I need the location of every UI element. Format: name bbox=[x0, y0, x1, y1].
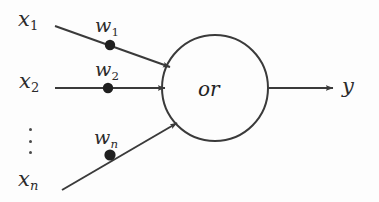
connection-line-xn bbox=[62, 123, 177, 190]
weight-label-w2-base: w bbox=[95, 58, 111, 80]
input-label-x1-base: x bbox=[18, 7, 30, 31]
input-label-x1-subscript: 1 bbox=[30, 18, 38, 33]
input-label-x2-base: x bbox=[19, 69, 31, 93]
input-label-x2: x2 bbox=[19, 71, 39, 92]
vertical-ellipsis-icon bbox=[28, 128, 32, 154]
input-label-x2-subscript: 2 bbox=[31, 80, 39, 95]
input-label-xn: xn bbox=[18, 169, 38, 190]
output-label-y: y bbox=[342, 76, 354, 97]
weight-label-w2: w2 bbox=[95, 60, 119, 79]
weight-label-wn: wn bbox=[94, 128, 118, 147]
neuron-diagram: x1 x2 xn w1 w2 wn or y bbox=[0, 0, 379, 202]
weight-label-wn-subscript: n bbox=[111, 137, 119, 151]
weight-dot-w1 bbox=[105, 40, 115, 50]
weight-label-w1-base: w bbox=[95, 14, 111, 36]
weight-label-w1-subscript: 1 bbox=[112, 25, 120, 39]
diagram-canvas bbox=[0, 0, 379, 202]
ellipsis-dot bbox=[29, 140, 32, 143]
neuron-operation-label: or bbox=[198, 77, 220, 101]
ellipsis-dot bbox=[29, 128, 32, 131]
weight-label-wn-base: w bbox=[94, 126, 110, 148]
input-label-x1: x1 bbox=[18, 9, 38, 30]
weight-dot-w2 bbox=[103, 83, 113, 93]
weight-label-w2-subscript: 2 bbox=[112, 69, 120, 83]
input-label-xn-base: x bbox=[18, 167, 30, 191]
weight-label-w1: w1 bbox=[95, 16, 119, 35]
weight-dot-wn bbox=[104, 149, 115, 160]
ellipsis-dot bbox=[29, 151, 32, 154]
input-label-xn-subscript: n bbox=[30, 178, 38, 193]
